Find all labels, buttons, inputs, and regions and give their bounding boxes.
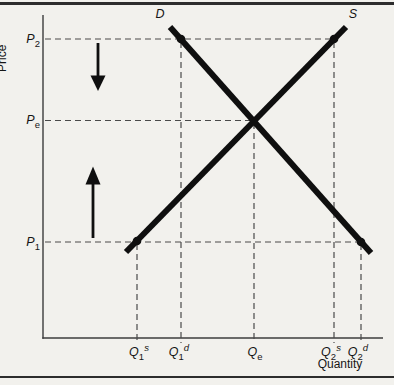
demand-curve-label: D (155, 7, 164, 21)
quantity-tick-q1d: Q1d (169, 345, 189, 359)
price-axis-label: Price (0, 45, 9, 72)
price-tick-pe: Pe (18, 113, 40, 127)
point-supply-at-p1 (133, 237, 142, 246)
price-tick-p1: P1 (18, 235, 40, 249)
point-demand-at-p2 (177, 35, 186, 44)
quantity-tick-q2d: Q2d (348, 345, 368, 359)
price-increase-arrow-icon (86, 167, 101, 239)
demand-curve (170, 27, 371, 253)
quantity-tick-q2s: Q2s (321, 345, 341, 359)
price-decrease-arrow-icon (91, 43, 106, 91)
point-demand-at-p1 (357, 238, 366, 247)
quantity-axis-label: Quantity (318, 357, 363, 371)
supply-curve (126, 27, 346, 252)
supply-demand-plot (0, 0, 394, 385)
quantity-tick-q1s: Q1s (129, 345, 149, 359)
price-tick-p2: P2 (18, 32, 40, 46)
point-supply-at-p2 (330, 35, 339, 44)
quantity-tick-qe: Qe (247, 345, 262, 359)
supply-curve-label: S (349, 7, 357, 21)
